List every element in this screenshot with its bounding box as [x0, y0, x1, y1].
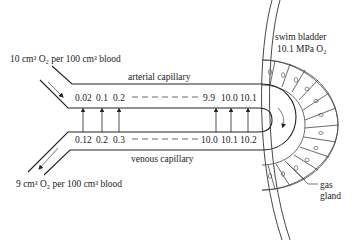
arterial-value: 10.0 [221, 93, 238, 103]
venous-value: 0.12 [75, 135, 92, 145]
venous-values: 0.12 0.2 0.3 10.0 10.1 10.2 [75, 135, 257, 145]
venous-value: 10.0 [201, 135, 218, 145]
arterial-value: 0.1 [96, 93, 108, 103]
countercurrent-diagram: 10 cm³ O₂ per 100 cm³ blood arterial cap… [0, 0, 356, 240]
gas-gland-label-1: gas [320, 180, 333, 190]
inflow-label: 10 cm³ O₂ per 100 cm³ blood [10, 54, 121, 64]
arterial-value: 10.1 [240, 93, 257, 103]
venous-value: 10.2 [240, 135, 257, 145]
inflow-arrow [48, 82, 62, 96]
arterial-value: 0.02 [75, 93, 92, 103]
dashed-continuations [132, 97, 200, 139]
swim-bladder-label: swim bladder [275, 32, 327, 42]
diffusion-arrows [83, 110, 248, 132]
gas-gland [262, 60, 338, 190]
venous-value: 0.2 [96, 135, 108, 145]
arterial-capillary-label: arterial capillary [128, 72, 191, 82]
outflow-label: 9 cm³ O₂ per 100 cm³ blood [16, 179, 122, 189]
gas-gland-pointer [287, 163, 318, 184]
arterial-value: 9.9 [203, 93, 215, 103]
arterial-values: 0.02 0.1 0.2 9.9 10.0 10.1 [75, 93, 257, 103]
venous-value: 0.3 [113, 135, 125, 145]
gas-gland-label-2: gland [320, 191, 341, 201]
arterial-value: 0.2 [113, 93, 125, 103]
loop-flow-arrow [278, 108, 284, 126]
swim-bladder-pressure: 10.1 MPa O₂ [277, 44, 327, 54]
venous-capillary-label: venous capillary [131, 154, 194, 164]
venous-value: 10.1 [221, 135, 238, 145]
